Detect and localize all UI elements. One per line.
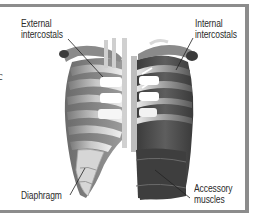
- label-line: intercostals: [21, 29, 63, 40]
- label-external-intercostals: External intercostals: [21, 18, 63, 40]
- right-ribcage-half: [136, 40, 198, 200]
- label-diaphragm: Diaphragm: [21, 190, 62, 201]
- label-line: External: [21, 18, 63, 29]
- label-line: muscles: [194, 194, 232, 205]
- label-internal-intercostals: Internal intercostals: [195, 18, 237, 40]
- label-line: Accessory: [194, 183, 232, 194]
- label-line: Internal: [195, 18, 237, 29]
- left-ribcage-half: [59, 46, 124, 198]
- label-line: intercostals: [195, 29, 237, 40]
- label-accessory-muscles: Accessory muscles: [194, 183, 232, 205]
